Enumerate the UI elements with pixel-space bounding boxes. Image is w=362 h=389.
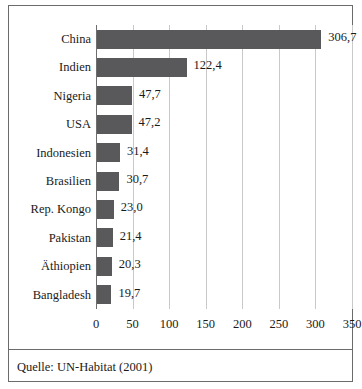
x-tick-label: 250: [269, 316, 288, 332]
category-label: Bangladesh: [9, 281, 91, 309]
bar: [97, 200, 114, 219]
x-tick-label: 100: [160, 316, 179, 332]
bar-value-label: 47,7: [139, 85, 161, 104]
bar: [97, 30, 321, 49]
bar: [97, 285, 111, 304]
bar-row: 21,4: [96, 224, 352, 252]
x-axis-tick-labels: 050100150200250300350: [96, 316, 352, 336]
bar: [97, 143, 120, 162]
bar-row: 31,4: [96, 139, 352, 167]
bar-value-label: 122,4: [194, 56, 222, 75]
bar: [97, 115, 132, 134]
x-tick-label: 200: [233, 316, 252, 332]
bar-row: 20,3: [96, 252, 352, 280]
source-divider: [9, 349, 352, 350]
x-tick-label: 150: [196, 316, 215, 332]
bar-row: 23,0: [96, 195, 352, 223]
bar: [97, 172, 119, 191]
category-label: China: [9, 25, 91, 53]
bar: [97, 257, 112, 276]
bar-value-label: 306,7: [328, 28, 356, 47]
bar-row: 47,7: [96, 82, 352, 110]
bar: [97, 228, 113, 247]
category-label: Indien: [9, 53, 91, 81]
category-label: Brasilien: [9, 167, 91, 195]
category-label: Äthiopien: [9, 252, 91, 280]
bar: [97, 58, 187, 77]
bar: [97, 86, 132, 105]
bar-value-label: 47,2: [139, 113, 161, 132]
category-label: Rep. Kongo: [9, 195, 91, 223]
bar-series: 306,7122,447,747,231,430,723,021,420,319…: [96, 25, 352, 309]
bar-row: 47,2: [96, 110, 352, 138]
bar-value-label: 19,7: [118, 284, 140, 303]
category-axis-labels: ChinaIndienNigeriaUSAIndonesienBrasilien…: [9, 25, 91, 309]
source-note: Quelle: UN-Habitat (2001): [17, 358, 152, 376]
category-label: Nigeria: [9, 82, 91, 110]
bar-row: 122,4: [96, 53, 352, 81]
category-label: Pakistan: [9, 224, 91, 252]
bar-value-label: 20,3: [119, 255, 141, 274]
bar-value-label: 30,7: [126, 170, 148, 189]
x-tick-label: 0: [93, 316, 99, 332]
chart-figure: ChinaIndienNigeriaUSAIndonesienBrasilien…: [8, 5, 353, 382]
bar-row: 30,7: [96, 167, 352, 195]
x-tick-label: 350: [343, 316, 362, 332]
bar-row: 19,7: [96, 281, 352, 309]
chart-plot-region: ChinaIndienNigeriaUSAIndonesienBrasilien…: [9, 6, 352, 349]
x-tick-label: 50: [126, 316, 139, 332]
plot-area: 306,7122,447,747,231,430,723,021,420,319…: [96, 25, 352, 309]
x-tick-label: 300: [306, 316, 325, 332]
category-label: Indonesien: [9, 139, 91, 167]
bar-value-label: 31,4: [127, 142, 149, 161]
gridline: [352, 25, 353, 309]
bar-value-label: 21,4: [120, 227, 142, 246]
category-label: USA: [9, 110, 91, 138]
bar-row: 306,7: [96, 25, 352, 53]
bar-value-label: 23,0: [121, 198, 143, 217]
